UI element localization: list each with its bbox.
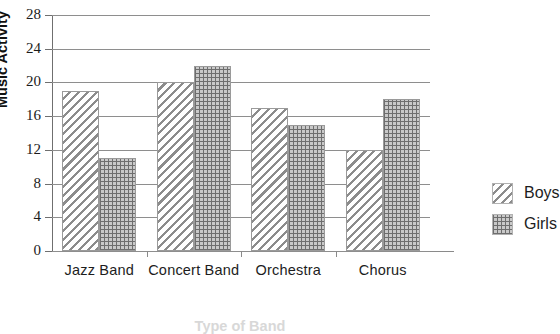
y-tick-label-4: 4 [34,208,42,225]
chart-legend: Boys Girls [492,180,560,242]
y-tick-4 [45,217,52,218]
x-tick-2 [241,251,242,257]
y-tick-label-16: 16 [26,107,41,124]
y-tick-label-24: 24 [26,40,41,57]
y-tick-label-20: 20 [26,74,41,91]
y-tick-label-8: 8 [34,175,42,192]
y-tick-20 [45,82,52,83]
bar-chorus-girls [383,99,420,251]
y-tick-label-28: 28 [26,6,41,23]
x-axis-label-chorus: Chorus [336,262,431,279]
gridline-20 [52,82,430,83]
x-tick-1 [147,251,148,257]
legend-item-boys: Boys [492,180,560,206]
legend-label-girls: Girls [524,215,557,233]
y-tick-24 [45,49,52,50]
x-axis-title: Type of Band [110,318,370,334]
x-axis-label-orchestra: Orchestra [241,262,336,279]
legend-label-boys: Boys [524,184,560,202]
gridline-28 [52,15,430,16]
bar-concert-band-boys [157,82,194,251]
bar-chorus-boys [346,150,383,251]
legend-swatch-boys-icon [492,183,513,204]
plot-area: 0481216202428 [52,15,430,251]
bar-orchestra-boys [251,108,288,251]
y-tick-8 [45,184,52,185]
gridline-16 [52,116,430,117]
legend-item-girls: Girls [492,211,560,237]
y-tick-0 [45,251,52,252]
y-tick-label-12: 12 [26,141,41,158]
y-tick-label-0: 0 [34,242,42,259]
x-axis-label-concert-band: Concert Band [147,262,242,279]
x-tick-3 [336,251,337,257]
gridline-24 [52,49,430,50]
bar-orchestra-girls [288,125,325,251]
bar-concert-band-girls [194,66,231,251]
legend-swatch-girls-icon [492,214,513,235]
x-axis-label-jazz-band: Jazz Band [52,262,147,279]
bar-jazz-band-boys [62,91,99,251]
bar-jazz-band-girls [99,158,136,251]
y-axis-title: Music Activity [0,11,10,108]
y-tick-16 [45,116,52,117]
y-tick-28 [45,15,52,16]
y-tick-12 [45,150,52,151]
